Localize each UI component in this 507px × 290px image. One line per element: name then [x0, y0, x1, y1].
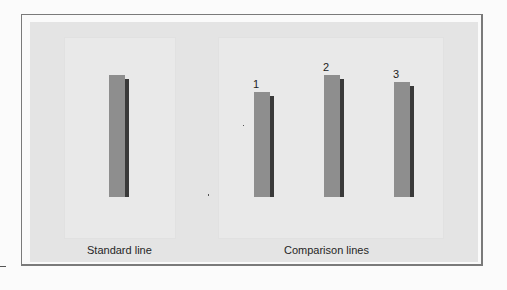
speck-mark	[208, 194, 209, 196]
standard-line-bar	[109, 75, 125, 197]
standard-line-caption: Standard line	[87, 244, 152, 256]
comparison-line-label-2: 2	[318, 61, 334, 73]
speck-mark	[243, 125, 244, 126]
bar-shadow	[125, 79, 129, 197]
bar-shadow	[270, 96, 274, 197]
bar-shadow	[410, 86, 414, 197]
comparison-line-label-1: 1	[248, 78, 264, 90]
bar-shadow	[340, 79, 344, 197]
comparison-line-bar-3	[394, 82, 410, 197]
comparison-line-label-3: 3	[388, 68, 404, 80]
comparison-line-bar-2	[324, 75, 340, 197]
comparison-lines-caption: Comparison lines	[284, 244, 369, 256]
margin-tick-mark	[0, 266, 6, 267]
comparison-line-bar-1	[254, 92, 270, 197]
